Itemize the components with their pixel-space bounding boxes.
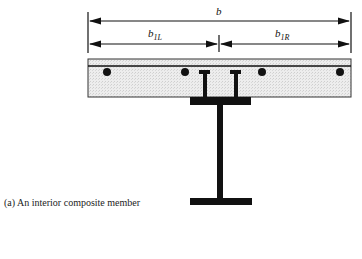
- composite-member-diagram: b b1L b1R: [0, 0, 362, 259]
- figure-caption: (a) An interior composite member: [4, 197, 140, 208]
- dimension-lines: [88, 12, 351, 53]
- concrete-slab: [88, 59, 351, 97]
- steel-i-beam: [190, 97, 252, 205]
- label-b: b: [216, 5, 222, 17]
- label-b1r: b1R: [275, 27, 290, 42]
- label-b1l: b1L: [148, 27, 163, 42]
